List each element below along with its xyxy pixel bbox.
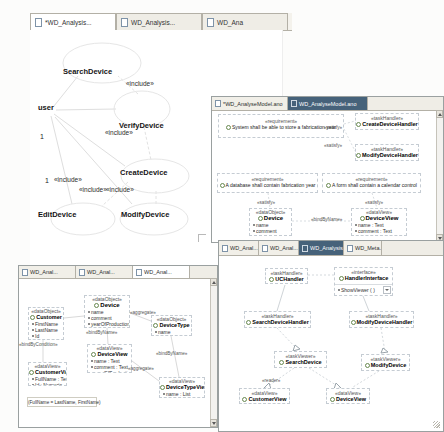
tab-wd-analysis-2[interactable]: WD_Analysis... <box>116 13 202 30</box>
reader-label: «reader» <box>262 378 280 383</box>
actor-user[interactable]: user <box>38 103 54 112</box>
attribute: name : List <box>166 391 190 397</box>
class-box-customer[interactable]: «dataObject» Customer FirstName LastName… <box>28 307 64 340</box>
include-label: «include» <box>106 186 134 193</box>
tab-label: *WD_Analysis... <box>45 19 92 26</box>
attribute-marker-icon <box>91 360 93 362</box>
interface-box-handler-interface[interactable]: «interface» HandlerInterface ShowViewer … <box>334 267 393 296</box>
class-box-device[interactable]: «dataObject» Device name comment yearOfP… <box>249 208 292 236</box>
class-box-search-device-viewer[interactable]: «taskViewer» SearchDevice <box>274 351 327 368</box>
tab-wd-analysis-3[interactable]: WD_Ana <box>202 13 288 30</box>
document-tab-bar: *WD_Analysis... WD_Analysis... WD_Ana <box>30 13 292 31</box>
class-box-uc-handler[interactable]: «taskHandler» UCHandler <box>265 268 308 284</box>
class-name: DeviceView <box>336 396 366 402</box>
class-name: UCHandler <box>275 276 303 282</box>
class-icon <box>330 397 335 402</box>
usecase-edit-device[interactable]: EditDevice <box>38 210 76 219</box>
class-box-create-device-handler[interactable]: «taskHandler» CreateDeviceHandler <box>355 113 419 130</box>
class-box-device-type-view[interactable]: «dataView» DeviceTypeView name : List <box>159 377 205 398</box>
bind-by-name-label: «bindByName» <box>156 351 187 356</box>
interface-name: HandlerInterface <box>345 275 388 281</box>
requirement-text: A database shall contain fabrication yea… <box>226 182 316 188</box>
class-name: DeviceView <box>97 351 127 357</box>
operation: ShowViewer ( ) <box>341 287 375 293</box>
class-icon <box>153 323 158 328</box>
scroll-up-button[interactable] <box>436 110 443 118</box>
class-box-device-view[interactable]: «dataView» DeviceView name : Text commen… <box>351 208 407 236</box>
class-box-modify-device-handler[interactable]: «taskHandler» ModifyDeviceHandler <box>349 311 414 328</box>
attribute-marker-icon <box>32 329 34 331</box>
arrow-up-icon <box>438 113 442 116</box>
class-box-customer-view[interactable]: «dataView» CustomerView <box>239 388 290 404</box>
class-name: Device <box>264 215 283 221</box>
class-box-modify-device-handler[interactable]: «taskHandler» ModifyDeviceHandler <box>355 144 419 161</box>
satisfy-label: «satisfy» <box>365 200 383 205</box>
scroll-down-button[interactable] <box>210 419 217 427</box>
class-icon <box>94 303 99 308</box>
attribute-marker-icon <box>32 335 34 337</box>
attribute-marker-icon <box>253 224 255 226</box>
class-box-customer-view[interactable]: «dataView» CustomerView FullName : Text … <box>28 362 67 386</box>
tab-wd-analysis-1[interactable]: *WD_Analysis... <box>30 13 116 30</box>
requirement-text: System shall be able to store a fabricat… <box>232 124 336 130</box>
satisfy-label: «satisfy» <box>324 143 342 148</box>
class-box-device-view[interactable]: «dataView» DeviceView <box>326 388 370 404</box>
attribute-marker-icon <box>91 372 93 373</box>
multiplicity-label: 1 <box>45 177 49 184</box>
resize-grip[interactable] <box>433 421 440 428</box>
expand-dropdown-icon[interactable] <box>383 286 391 294</box>
class-box-device-type[interactable]: «dataObject» DeviceType name <box>151 315 192 336</box>
class-box-device[interactable]: «dataObject» Device name comment yearOfP… <box>84 295 130 328</box>
class-box-search-device-handler[interactable]: «taskHandler» SearchDeviceHandler <box>244 311 311 328</box>
attribute: Id : Numeric <box>35 382 62 386</box>
tab-label: WD_Ana <box>217 19 243 26</box>
requirement-box-form-calendar-control[interactable]: «requirement» A form shall contain a cal… <box>322 173 421 193</box>
attribute-marker-icon <box>32 378 34 380</box>
include-label: «include» <box>54 176 82 183</box>
class-box-device-view[interactable]: «dataView» DeviceView name : Text commen… <box>87 344 132 373</box>
usecase-modify-device[interactable]: ModifyDevice <box>121 210 169 219</box>
satisfy-label: «satisfy» <box>324 125 342 130</box>
class-icon <box>360 216 365 221</box>
binding-note[interactable]: (FullName = LastName, FirstName) <box>27 397 97 407</box>
class-name: CreateDeviceHandler <box>362 121 417 127</box>
satisfy-label: «satisfy» <box>257 200 275 205</box>
arrow-down-icon <box>212 422 216 425</box>
class-name: Device <box>100 302 119 308</box>
class-name: SearchDeviceHandler <box>252 319 309 325</box>
class-name: SearchDevice <box>285 359 321 365</box>
class-box-modify-device-viewer[interactable]: «taskViewer» ModifyDevice <box>361 354 410 371</box>
requirement-text: A form shall contain a calendar control <box>332 182 417 188</box>
scroll-up-button[interactable] <box>210 278 217 286</box>
attribute-marker-icon <box>91 366 93 368</box>
class-icon <box>356 122 361 127</box>
document-icon <box>121 18 128 27</box>
arrow-up-icon <box>212 281 216 284</box>
tab-label: WD_Analysis... <box>131 19 175 26</box>
class-icon <box>269 277 274 282</box>
usecase-search-device[interactable]: SearchDevice <box>63 67 112 76</box>
requirement-box-database-fabrication-year[interactable]: «requirement» A database shall contain f… <box>217 173 318 193</box>
attribute-marker-icon <box>32 323 34 325</box>
include-label: «include» <box>79 186 107 193</box>
class-name: ModifyDeviceHandler <box>362 152 418 158</box>
attribute: Id <box>35 333 39 339</box>
bind-by-name-label: «bindByName» <box>311 217 342 222</box>
usecase-create-device[interactable]: CreateDevice <box>120 168 168 177</box>
vertical-scrollbar[interactable] <box>436 110 443 242</box>
requirement-icon <box>220 183 225 188</box>
class-icon <box>29 370 34 375</box>
operation-marker-icon <box>338 289 340 291</box>
architecture-panel: WD_Anal... WD_Anal... WD_Analysis... WD_… <box>218 240 444 432</box>
bind-by-name-label: «bindByName» <box>86 330 117 335</box>
class-icon <box>279 360 284 365</box>
class-name: CustomerView <box>248 396 286 402</box>
class-icon <box>365 363 370 368</box>
class-icon <box>30 315 35 320</box>
class-name: DeviceType <box>159 322 189 328</box>
attribute-marker-icon <box>88 317 90 319</box>
include-label: «include» <box>105 129 133 136</box>
attribute-marker-icon <box>155 331 157 333</box>
vertical-scrollbar[interactable] <box>210 278 217 427</box>
class-name: DeviceTypeView <box>166 384 205 390</box>
